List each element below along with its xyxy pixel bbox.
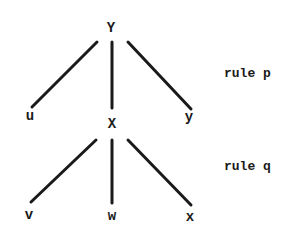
rule-q-label: rule q [224, 160, 271, 174]
edge-X-x [128, 140, 191, 205]
node-v: v [25, 208, 33, 222]
node-w: w [108, 209, 116, 223]
tree-diagram: Y u X y v w x rule p rule q [0, 0, 308, 235]
node-X: X [108, 117, 116, 131]
node-x: x [186, 210, 194, 224]
edge-Y-u [32, 42, 97, 107]
edge-Y-y [128, 42, 191, 109]
tree-edges [0, 0, 308, 235]
node-Y: Y [107, 21, 115, 35]
node-u: u [26, 109, 34, 123]
node-y: y [185, 110, 193, 124]
edge-X-v [31, 140, 96, 202]
rule-p-label: rule p [224, 67, 271, 81]
